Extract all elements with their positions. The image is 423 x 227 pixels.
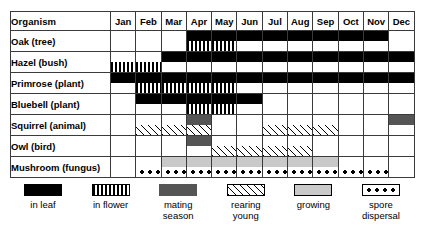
activity-fill bbox=[136, 62, 160, 72]
phenology-table: Organism JanFebMarAprMayJunJulAugSepOctN… bbox=[10, 11, 415, 178]
activity-cell-empty bbox=[237, 62, 262, 73]
activity-cell-rearing-young bbox=[186, 125, 211, 136]
legend-swatch-fill bbox=[228, 185, 264, 195]
activity-fill bbox=[212, 94, 236, 104]
activity-fill bbox=[339, 73, 363, 83]
activity-cell-empty bbox=[389, 167, 414, 178]
activity-cell-in-leaf bbox=[186, 73, 211, 84]
table-body: Oak (tree)Hazel (bush)Primrose (plant)Bl… bbox=[11, 31, 415, 178]
activity-cell-in-leaf bbox=[262, 52, 287, 63]
activity-cell-empty bbox=[111, 115, 136, 126]
activity-cell-empty bbox=[237, 125, 262, 136]
activity-cell-empty bbox=[313, 136, 338, 147]
column-header-month: Sep bbox=[313, 12, 338, 31]
activity-cell-in-leaf bbox=[363, 31, 388, 42]
activity-cell-in-leaf bbox=[186, 94, 211, 105]
activity-cell-rearing-young bbox=[262, 125, 287, 136]
activity-cell-empty bbox=[136, 31, 161, 42]
activity-fill bbox=[212, 157, 236, 167]
activity-cell-empty bbox=[389, 31, 414, 42]
activity-cell-in-leaf bbox=[186, 31, 211, 42]
activity-cell-spore-dispersal bbox=[136, 167, 161, 178]
column-header-month: Aug bbox=[288, 12, 313, 31]
activity-cell-in-leaf bbox=[262, 73, 287, 84]
organism-name-cell: Bluebell (plant) bbox=[11, 94, 111, 115]
activity-cell-empty bbox=[161, 115, 186, 126]
activity-cell-in-leaf bbox=[237, 94, 262, 105]
activity-cell-in-leaf bbox=[338, 31, 363, 42]
activity-fill bbox=[187, 52, 211, 62]
legend-swatch-in-flower bbox=[92, 184, 130, 196]
activity-cell-empty bbox=[338, 125, 363, 136]
activity-cell-empty bbox=[338, 104, 363, 115]
activity-cell-empty bbox=[237, 83, 262, 94]
activity-cell-in-flower bbox=[136, 62, 161, 73]
table-row: Hazel (bush) bbox=[11, 52, 415, 63]
activity-cell-empty bbox=[212, 136, 237, 147]
activity-cell-empty bbox=[288, 115, 313, 126]
activity-cell-in-leaf bbox=[161, 94, 186, 105]
activity-cell-empty bbox=[313, 115, 338, 126]
legend-item: in leaf bbox=[10, 184, 76, 211]
activity-cell-empty bbox=[338, 157, 363, 168]
activity-cell-in-leaf bbox=[161, 73, 186, 84]
activity-cell-empty bbox=[262, 115, 287, 126]
column-header-month: Mar bbox=[161, 12, 186, 31]
activity-cell-empty bbox=[389, 94, 414, 105]
activity-cell-empty bbox=[313, 94, 338, 105]
activity-cell-in-leaf bbox=[161, 52, 186, 63]
activity-fill bbox=[212, 41, 236, 51]
activity-cell-spore-dispersal bbox=[313, 167, 338, 178]
column-header-month: Oct bbox=[338, 12, 363, 31]
activity-fill bbox=[162, 157, 186, 167]
activity-cell-in-leaf bbox=[212, 31, 237, 42]
activity-fill bbox=[339, 167, 363, 177]
activity-cell-empty bbox=[288, 104, 313, 115]
activity-cell-empty bbox=[389, 104, 414, 115]
activity-cell-in-leaf bbox=[288, 31, 313, 42]
activity-fill bbox=[187, 104, 211, 114]
activity-cell-empty bbox=[389, 157, 414, 168]
activity-cell-empty bbox=[313, 41, 338, 52]
legend-swatch-fill bbox=[24, 184, 62, 196]
activity-fill bbox=[288, 73, 312, 83]
legend-swatch-fill bbox=[295, 185, 331, 195]
legend-label: growing bbox=[297, 200, 330, 211]
activity-fill bbox=[212, 104, 236, 114]
activity-fill bbox=[136, 167, 160, 177]
activity-cell-in-leaf bbox=[212, 94, 237, 105]
activity-cell-empty bbox=[111, 157, 136, 168]
activity-cell-empty bbox=[136, 104, 161, 115]
activity-fill bbox=[187, 94, 211, 104]
table-header: Organism JanFebMarAprMayJunJulAugSepOctN… bbox=[11, 12, 415, 31]
activity-cell-mating-season bbox=[389, 115, 414, 126]
activity-fill bbox=[212, 73, 236, 83]
activity-fill bbox=[237, 31, 261, 41]
activity-fill bbox=[389, 52, 413, 62]
activity-fill bbox=[187, 167, 211, 177]
activity-cell-in-flower bbox=[136, 83, 161, 94]
activity-cell-in-leaf bbox=[313, 52, 338, 63]
legend-label: in leaf bbox=[30, 200, 55, 211]
activity-fill bbox=[162, 52, 186, 62]
activity-fill bbox=[237, 146, 261, 156]
activity-fill bbox=[187, 41, 211, 51]
activity-fill bbox=[313, 157, 337, 167]
activity-cell-rearing-young bbox=[237, 146, 262, 157]
activity-fill bbox=[212, 31, 236, 41]
activity-cell-growing bbox=[186, 157, 211, 168]
activity-fill bbox=[136, 83, 160, 93]
activity-fill bbox=[136, 73, 160, 83]
activity-cell-empty bbox=[136, 52, 161, 63]
activity-cell-growing bbox=[237, 157, 262, 168]
activity-cell-mating-season bbox=[186, 136, 211, 147]
activity-cell-empty bbox=[111, 52, 136, 63]
activity-cell-spore-dispersal bbox=[186, 167, 211, 178]
activity-cell-in-flower bbox=[111, 62, 136, 73]
activity-fill bbox=[263, 125, 287, 135]
activity-cell-in-leaf bbox=[389, 73, 414, 84]
activity-cell-empty bbox=[111, 167, 136, 178]
activity-cell-empty bbox=[161, 104, 186, 115]
activity-fill bbox=[237, 167, 261, 177]
activity-fill bbox=[187, 83, 211, 93]
